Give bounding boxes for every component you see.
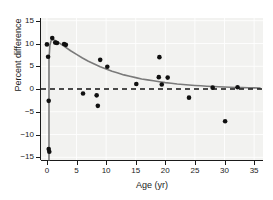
x-tick-label: 20	[161, 167, 170, 175]
y-tick-mark	[36, 157, 40, 158]
y-tick-label: 5	[30, 62, 34, 70]
x-axis-label: Age (yr)	[41, 180, 263, 190]
y-tick-label: 10	[25, 40, 34, 48]
y-tick-label: −5	[25, 108, 34, 116]
x-tick-mark	[225, 161, 226, 165]
y-tick-label: −10	[20, 131, 34, 139]
x-tick-mark	[195, 161, 196, 165]
x-tick-mark	[136, 161, 137, 165]
plot-area	[41, 18, 263, 160]
chart-figure: 151050−5−10−1505101520253035 Percent dif…	[0, 0, 273, 200]
x-tick-mark	[165, 161, 166, 165]
x-tick-mark	[77, 161, 78, 165]
y-tick-mark	[36, 44, 40, 45]
y-tick-label: 15	[25, 17, 34, 25]
x-tick-label: 0	[45, 167, 49, 175]
x-tick-mark	[47, 161, 48, 165]
x-tick-mark	[106, 161, 107, 165]
x-axis-line	[41, 160, 263, 161]
y-tick-mark	[36, 135, 40, 136]
x-tick-label: 25	[190, 167, 199, 175]
x-tick-label: 5	[74, 167, 78, 175]
x-tick-label: 35	[250, 167, 259, 175]
y-tick-mark	[36, 66, 40, 67]
y-tick-label: 0	[30, 85, 34, 93]
y-tick-mark	[36, 21, 40, 22]
x-tick-label: 30	[220, 167, 229, 175]
x-tick-label: 15	[131, 167, 140, 175]
y-axis-label: Percent difference	[13, 0, 23, 115]
y-tick-label: −15	[20, 153, 34, 161]
y-tick-mark	[36, 89, 40, 90]
x-tick-label: 10	[102, 167, 111, 175]
y-tick-mark	[36, 112, 40, 113]
y-axis-line	[40, 18, 41, 160]
x-tick-mark	[254, 161, 255, 165]
